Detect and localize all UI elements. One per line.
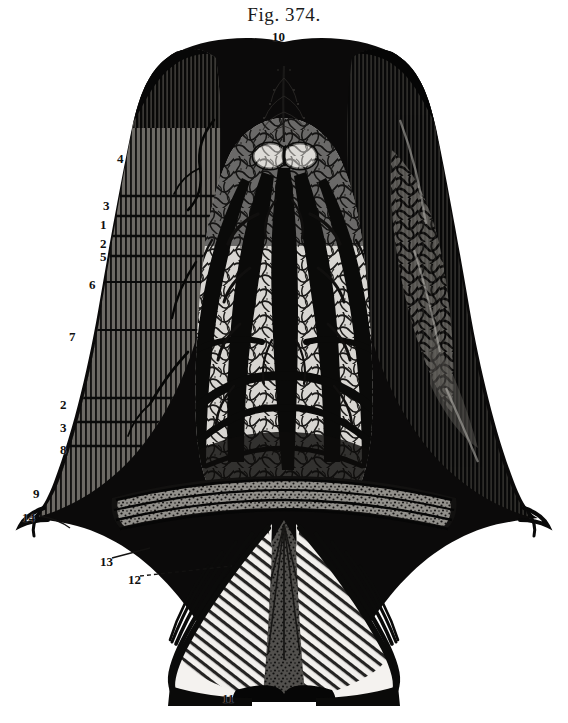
label-14: 14 <box>22 511 35 524</box>
engraving-body <box>0 0 568 723</box>
label-7: 7 <box>69 330 76 343</box>
label-9: 9 <box>33 487 40 500</box>
label-6: 6 <box>89 278 96 291</box>
label-10: 10 <box>272 30 285 43</box>
label-13: 13 <box>100 555 113 568</box>
label-8: 8 <box>60 443 67 456</box>
paired-oval-bodies <box>253 143 317 169</box>
label-5: 5 <box>100 250 107 263</box>
label-1: 1 <box>100 218 107 231</box>
label-2-lower: 2 <box>60 398 67 411</box>
label-11: 11 <box>222 692 234 705</box>
figure-plate: Fig. 374. <box>0 0 568 723</box>
label-3-lower: 3 <box>60 421 67 434</box>
anatomical-engraving <box>0 0 568 723</box>
label-3-upper: 3 <box>103 199 110 212</box>
label-12: 12 <box>128 573 141 586</box>
label-4: 4 <box>117 152 124 165</box>
